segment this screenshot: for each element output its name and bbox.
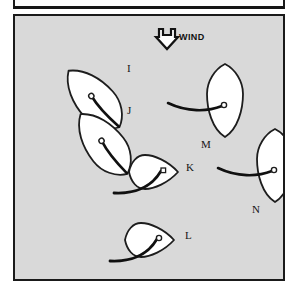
boat-N — [215, 119, 283, 205]
wind-label: WIND — [179, 33, 205, 42]
boat-label-N: N — [252, 204, 260, 215]
boat-label-L: L — [185, 230, 192, 241]
boat-label-J: J — [127, 105, 131, 116]
boat-L — [103, 212, 195, 268]
diagram-root: WIND I — [0, 0, 301, 292]
diagram-canvas: WIND I — [15, 16, 283, 279]
boat-label-M: M — [201, 139, 211, 150]
boat-label-K: K — [186, 162, 194, 173]
diagram-panel: WIND I — [13, 14, 285, 281]
upper-panel-edge — [13, 0, 285, 9]
wind-arrow-down-icon — [155, 28, 179, 50]
boat-label-I: I — [127, 63, 131, 74]
